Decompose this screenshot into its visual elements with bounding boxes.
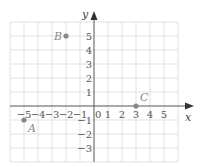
y-tick-label: −2 <box>77 129 92 140</box>
x-tick-label: 1 <box>105 109 111 120</box>
x-tick-label: 4 <box>147 109 153 120</box>
origin-label: 0 <box>95 109 101 120</box>
x-tick-label: −4 <box>31 109 46 120</box>
y-tick-label: 4 <box>86 45 92 56</box>
x-tick-label: −2 <box>59 109 74 120</box>
point-label-c: C <box>140 91 149 104</box>
point-b <box>63 33 68 38</box>
x-axis-arrow-icon <box>185 103 194 110</box>
x-tick-label: −3 <box>45 109 60 120</box>
x-tick-label: 5 <box>161 109 167 120</box>
y-tick-label: 2 <box>86 73 92 84</box>
point-label-b: B <box>53 30 62 43</box>
y-tick-label: 5 <box>86 31 92 42</box>
y-tick-label: −3 <box>77 143 92 154</box>
x-tick-label: 3 <box>133 109 139 120</box>
y-tick-label: 1 <box>86 87 92 98</box>
y-axis-label: y <box>81 8 89 21</box>
x-tick-label: 2 <box>119 109 125 120</box>
x-axis-label: x <box>185 111 192 124</box>
point-a <box>21 117 26 122</box>
point-label-a: A <box>27 122 36 135</box>
y-tick-labels: 54321−1−2−3 <box>77 31 92 154</box>
y-tick-label: −1 <box>77 115 92 126</box>
point-c <box>133 103 138 108</box>
y-axis-arrow-icon <box>91 11 98 20</box>
coordinate-plane: x y 0 −5−4−3−2−112345 54321−1−2−3 ABC <box>0 0 201 167</box>
y-tick-label: 3 <box>86 59 92 70</box>
